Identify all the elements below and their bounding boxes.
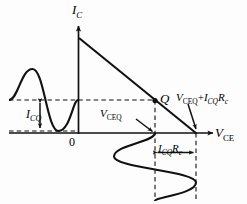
vceq-plus-icqrc-label: VCEQ+ICQRc (176, 92, 228, 106)
sum-pointer (188, 104, 196, 129)
icq-label: ICQ (26, 108, 41, 124)
load-line-figure: IC VCE Q 0 ICQ VCEQ VCEQ+ICQRc ICQRc (0, 0, 247, 204)
q-point-label: Q (160, 92, 169, 105)
collector-emitter-voltage-waveform (114, 133, 196, 201)
icqrc-label: ICQRc (158, 143, 182, 157)
dc-load-line (79, 38, 197, 134)
vceq-pointer (136, 119, 153, 132)
vceq-label: VCEQ (100, 108, 122, 122)
origin-label: 0 (69, 136, 75, 148)
x-axis-label: VCE (215, 126, 234, 142)
y-axis-label: IC (72, 3, 82, 19)
q-point-marker (152, 98, 157, 103)
